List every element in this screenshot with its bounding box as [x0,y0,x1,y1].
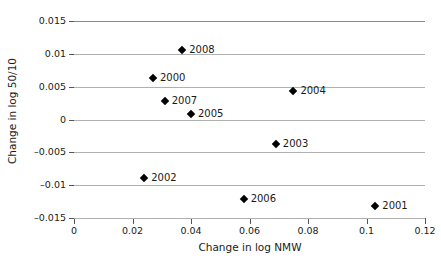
data-point-label: 2007 [172,95,197,106]
x-axis-title: Change in log NMW [74,241,426,253]
gridline-horizontal [74,120,425,121]
y-axis-tick-label: –0.015 [34,213,66,223]
diamond-marker-icon [160,97,168,105]
x-axis-tick-mark [250,219,251,224]
x-axis-tick-label: 0.02 [122,226,143,236]
x-axis-tick-label: 0.08 [297,226,318,236]
diamond-marker-icon [187,110,195,118]
x-axis-tick-label: 0 [71,226,77,236]
diamond-marker-icon [140,174,148,182]
x-axis-tick-mark [367,219,368,224]
y-axis-tick-label: 0.005 [39,82,66,92]
data-point-label: 2000 [160,72,185,83]
diamond-marker-icon [239,195,247,203]
x-axis-tick-label: 0.12 [414,226,435,236]
x-axis-tick-label: 0.06 [239,226,260,236]
x-axis-tick-mark [133,219,134,224]
x-axis-tick-mark [191,219,192,224]
diamond-marker-icon [149,74,157,82]
data-point-label: 2002 [151,172,176,183]
diamond-marker-icon [289,87,297,95]
diamond-marker-icon [272,140,280,148]
x-axis-tick-mark [308,219,309,224]
y-axis-tick-mark [69,87,74,88]
y-axis-tick-mark [69,152,74,153]
y-axis-tick-label: 0.01 [45,49,66,59]
x-axis-tick-label: 0.04 [180,226,201,236]
gridline-horizontal [74,54,425,55]
x-axis-tick-mark [74,219,75,224]
y-axis-tick-mark [69,54,74,55]
gridline-horizontal [74,185,425,186]
y-axis-tick-label: 0 [60,115,66,125]
x-axis-tick-mark [425,219,426,224]
y-axis-tick-label: –0.01 [40,180,66,190]
plot-area: 200820002004200720052003200220062001 [74,21,425,218]
y-axis-tick-mark [69,185,74,186]
data-point-label: 2005 [198,108,223,119]
gridline-horizontal [74,152,425,153]
y-axis-tick-label: –0.005 [34,147,66,157]
data-point-label: 2001 [382,200,407,211]
data-point-label: 2006 [251,193,276,204]
x-axis-tick-label: 0.1 [359,226,374,236]
gridline-horizontal [74,21,425,22]
y-axis-tick-label: 0.015 [39,16,66,26]
gridline-horizontal [74,87,425,88]
scatter-chart-figure: Change in log 50/10 0.0150.010.0050–0.00… [0,0,441,260]
diamond-marker-icon [371,202,379,210]
data-point-label: 2008 [189,44,214,55]
y-axis-tick-mark [69,21,74,22]
data-point-label: 2003 [283,138,308,149]
y-axis-tick-labels: 0.0150.010.0050–0.005–0.01–0.015 [0,0,66,260]
y-axis-tick-mark [69,120,74,121]
data-point-label: 2004 [300,85,325,96]
